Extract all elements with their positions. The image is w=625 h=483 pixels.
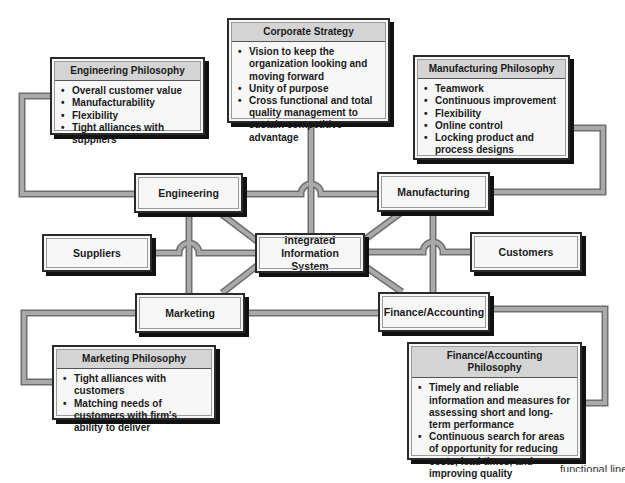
list-item: Tight alliances with suppliers — [72, 122, 197, 146]
list-item: Manufacturability — [72, 97, 197, 109]
list-item: Continuous improvement — [435, 95, 562, 107]
caption-text: functional lines — [560, 463, 625, 472]
list-item: Continuous search for areas of opportuni… — [429, 431, 574, 480]
list-item: Flexibility — [72, 110, 197, 122]
finance-accounting-node: Finance/Accounting — [378, 292, 490, 332]
list-item: Vision to keep the organization looking … — [249, 46, 382, 83]
list-item: Tight alliances with customers — [74, 373, 208, 397]
customers-node: Customers — [470, 232, 582, 272]
list-item: Timely and reliable information and meas… — [429, 382, 574, 431]
list-item: Online control — [435, 120, 562, 132]
manufacturing-node: Manufacturing — [377, 172, 490, 212]
engineering-node: Engineering — [134, 173, 243, 213]
list-item: Overall customer value — [72, 85, 197, 97]
suppliers-node: Suppliers — [42, 234, 152, 272]
manufacturing-philosophy-title: Manufacturing Philosophy — [417, 59, 566, 79]
marketing-philosophy-list: Tight alliances with customers Matching … — [54, 369, 214, 439]
corporate-strategy-title: Corporate Strategy — [231, 22, 386, 42]
finance-accounting-philosophy-box: Finance/Accounting Philosophy Timely and… — [407, 342, 582, 460]
figure-caption-clipped: functional lines — [30, 463, 625, 472]
corporate-strategy-box: Corporate Strategy Vision to keep the or… — [227, 18, 390, 123]
list-item: Unity of purpose — [249, 83, 382, 95]
marketing-philosophy-title: Marketing Philosophy — [56, 349, 212, 369]
engineering-philosophy-box: Engineering Philosophy Overall customer … — [50, 57, 205, 135]
list-item: Matching needs of customers with firm's … — [74, 398, 208, 435]
list-item: Flexibility — [435, 108, 562, 120]
manufacturing-philosophy-list: Teamwork Continuous improvement Flexibil… — [415, 79, 568, 161]
engineering-philosophy-title: Engineering Philosophy — [54, 61, 201, 81]
marketing-node: Marketing — [135, 293, 245, 333]
engineering-philosophy-list: Overall customer value Manufacturability… — [52, 81, 203, 151]
corporate-strategy-list: Vision to keep the organization looking … — [229, 42, 388, 149]
list-item: Teamwork — [435, 83, 562, 95]
manufacturing-philosophy-box: Manufacturing Philosophy Teamwork Contin… — [413, 55, 570, 160]
list-item: Cross functional and total quality manag… — [249, 95, 382, 144]
list-item: Locking product and process designs — [435, 132, 562, 156]
integrated-information-system-node: Integrated Information System — [255, 233, 365, 273]
finance-accounting-philosophy-title: Finance/Accounting Philosophy — [411, 346, 578, 378]
marketing-philosophy-box: Marketing Philosophy Tight alliances wit… — [52, 345, 216, 420]
